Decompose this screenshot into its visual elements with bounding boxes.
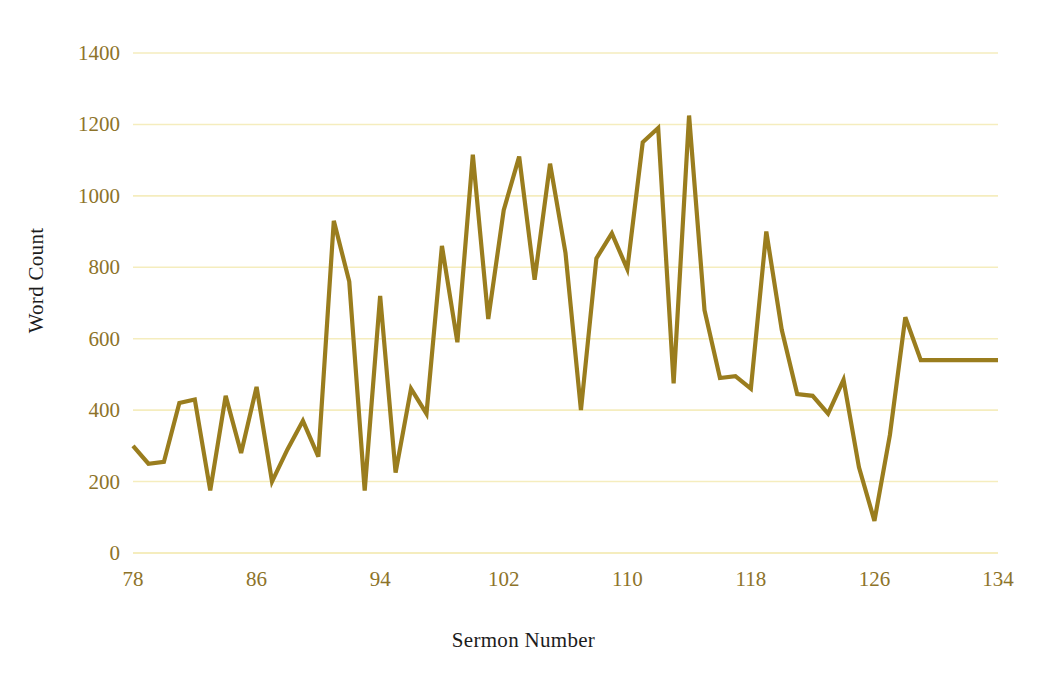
word-count-line-chart: Word Count 0200400600800100012001400 788… bbox=[0, 0, 1047, 676]
plot-area bbox=[0, 0, 1047, 676]
data-series-group bbox=[133, 116, 998, 521]
series-line bbox=[133, 116, 998, 521]
x-axis-title-label: Sermon Number bbox=[452, 628, 595, 652]
gridlines bbox=[133, 53, 998, 553]
x-axis-title: Sermon Number bbox=[0, 628, 1047, 653]
